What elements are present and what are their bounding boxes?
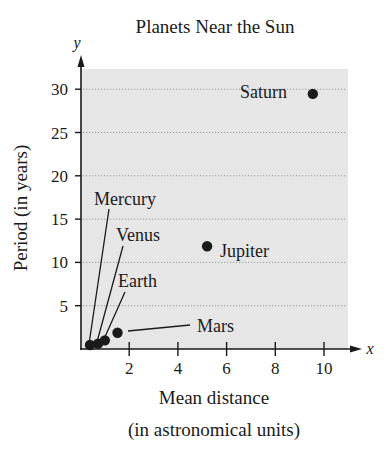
x-tick-label: 6 (222, 359, 231, 378)
y-tick-label: 25 (51, 124, 68, 143)
point-saturn (308, 89, 318, 99)
y-tick-label: 15 (51, 210, 68, 229)
y-axis-arrow-icon (78, 55, 85, 67)
y-axis-variable: y (71, 34, 81, 52)
y-tick-label: 10 (51, 253, 68, 272)
y-tick-label: 30 (51, 80, 68, 99)
plot-area (81, 69, 348, 349)
x-axis-variable: x (365, 340, 373, 357)
label-earth: Earth (118, 271, 157, 291)
y-ticks: 51015202530 (51, 80, 81, 316)
chart-title: Planets Near the Sun (136, 16, 295, 37)
point-mars (112, 328, 122, 338)
x-axis-label-line1: Mean distance (159, 387, 269, 408)
label-mars: Mars (197, 316, 234, 336)
x-tick-label: 4 (174, 359, 183, 378)
x-tick-label: 2 (125, 359, 134, 378)
x-axis-label-line2: (in astronomical units) (128, 419, 300, 441)
scatter-chart: Planets Near the Sun y x 246810 51015202… (0, 0, 388, 454)
label-mercury: Mercury (94, 189, 156, 209)
y-axis-label: Period (in years) (10, 145, 32, 272)
point-earth (100, 335, 110, 345)
label-saturn: Saturn (240, 82, 287, 102)
point-jupiter (202, 241, 212, 251)
x-tick-label: 8 (271, 359, 280, 378)
x-axis-arrow-icon (350, 346, 362, 353)
y-tick-label: 5 (60, 297, 69, 316)
label-venus: Venus (116, 225, 160, 245)
y-tick-label: 20 (51, 167, 68, 186)
x-tick-label: 10 (316, 359, 333, 378)
label-jupiter: Jupiter (220, 241, 269, 261)
